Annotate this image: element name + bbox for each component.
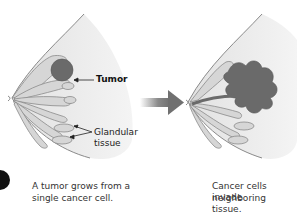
right-caption-line2: neighboring tissue. — [212, 193, 297, 215]
tumor-mass — [51, 59, 73, 81]
step-marker-icon — [0, 170, 10, 190]
glandular-tissue-label-line1: Glandular — [94, 127, 138, 137]
left-caption-line1: A tumor grows from a — [32, 181, 130, 192]
left-caption-line2: single cancer cell. — [32, 193, 113, 204]
right-breast-illustration — [186, 14, 297, 159]
tumor-label: Tumor — [96, 74, 128, 84]
glandular-tissue-label-line2: tissue — [94, 138, 121, 148]
progression-arrow-icon — [140, 90, 184, 115]
